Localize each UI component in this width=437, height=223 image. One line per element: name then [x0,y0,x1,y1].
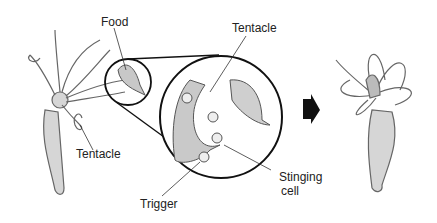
illustration [0,0,437,223]
label-trigger: Trigger [140,198,178,211]
arrow-right-icon [303,94,320,124]
label-tentacle-left: Tentacle [76,148,121,161]
hydra-left [29,30,125,194]
label-cell: cell [281,185,299,198]
hydra-diagram: Food Tentacle Tentacle Trigger Stinging … [0,0,437,223]
label-food: Food [101,16,128,29]
label-stinging: Stinging [279,171,322,184]
label-tentacle-zoom: Tentacle [232,22,277,35]
hydra-right [336,54,411,191]
food [118,65,145,95]
